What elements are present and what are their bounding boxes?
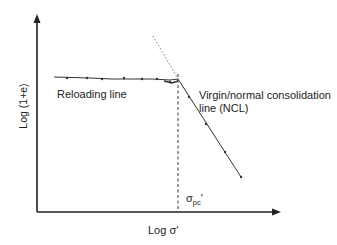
diagram-canvas: [0, 0, 337, 245]
ncl-extension: [153, 36, 178, 79]
x-axis-label: Log σ′: [148, 224, 178, 237]
reloading-line-label: Reloading line: [57, 88, 127, 101]
ncl-label-line2: line (NCL): [199, 102, 249, 115]
pc-subscript: pc: [193, 198, 201, 207]
prime-symbol: ′: [201, 192, 203, 204]
ncl-label-line1: Virgin/normal consolidation: [199, 89, 331, 102]
reloading-line: [54, 77, 178, 80]
preconsolidation-stress-label: σpc′: [186, 192, 203, 208]
sigma-symbol: σ: [186, 192, 193, 204]
y-axis-arrow-icon: [34, 14, 41, 23]
x-axis-arrow-icon: [272, 209, 281, 216]
y-axis-label: Log (1+e): [17, 71, 29, 141]
